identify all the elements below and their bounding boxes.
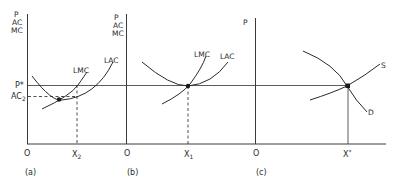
panel-a-x2-label: X2 [72,150,81,160]
panel-a-p-star-label: P* [15,81,24,90]
panel-a: P AC MC P* AC2 LMC LAC O X2 (a) [11,10,119,177]
panel-b-x1-label: X1 [184,150,193,160]
panel-a-origin: O [24,149,30,158]
panel-b-origin: O [124,149,130,158]
panel-c-y-label-p: P [243,18,248,27]
panel-b-y-label-mc: MC [112,29,124,38]
panel-a-caption: (a) [25,168,36,177]
panel-c: P S D O X* (c) [243,18,386,177]
panel-c-equilibrium-point [346,84,351,89]
panel-c-x-star-label: X* [343,148,351,159]
panel-a-ac2-label: AC2 [11,92,26,102]
panel-a-lmc-curve [42,72,87,109]
panel-b-lmc-curve [162,56,206,104]
panel-c-caption: (c) [256,168,267,177]
panel-a-min-point [57,97,61,101]
panel-c-d-label: D [368,108,374,117]
panel-b: P AC MC LMC LAC O X1 (b) [112,13,235,177]
panel-a-y-label-mc: MC [11,26,23,35]
panel-b-lmc-label: LMC [194,50,210,59]
panel-b-caption: (b) [127,168,138,177]
panel-a-lmc-label: LMC [73,66,89,75]
panel-b-equilibrium-point [186,84,190,88]
cost-curves-diagram: P AC MC P* AC2 LMC LAC O X2 (a) P AC MC [0,0,394,191]
panel-c-origin: O [253,149,259,158]
panel-c-s-label: S [381,61,386,70]
panel-b-lac-curve [142,62,228,86]
panel-c-demand-curve [303,51,367,112]
panel-b-lac-label: LAC [220,52,235,61]
panel-a-lac-label: LAC [104,56,119,65]
